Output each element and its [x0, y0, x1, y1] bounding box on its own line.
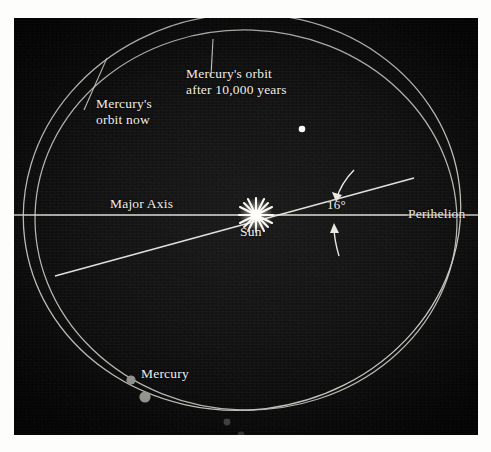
- label-orbit-now-line2: orbit now: [96, 112, 150, 127]
- label-perihelion: Perihelion: [408, 206, 466, 222]
- label-orbit-future-line2: after 10,000 years: [186, 82, 287, 97]
- label-orbit-now-line1: Mercury's: [96, 96, 152, 111]
- mercury-marker-faint-b: [238, 432, 245, 435]
- figure-canvas: Mercury'sorbit now Mercury's orbitafter …: [0, 0, 491, 452]
- label-orbit-future-line1: Mercury's orbit: [186, 66, 272, 81]
- label-orbit-future: Mercury's orbitafter 10,000 years: [186, 66, 287, 98]
- mercury-marker-future: [139, 391, 150, 402]
- star-marker: [299, 126, 306, 133]
- perihelion-axis-line: [55, 178, 414, 276]
- label-sun: Sun: [240, 224, 262, 240]
- label-mercury: Mercury: [141, 366, 189, 382]
- label-precession-angle: 16°: [327, 197, 346, 212]
- label-orbit-now: Mercury'sorbit now: [96, 96, 152, 128]
- label-major-axis: Major Axis: [110, 196, 173, 212]
- mercury-marker-faint-a: [224, 419, 231, 426]
- mercury-marker-now: [126, 375, 135, 384]
- angle-arrow-lower-icon: [330, 223, 339, 256]
